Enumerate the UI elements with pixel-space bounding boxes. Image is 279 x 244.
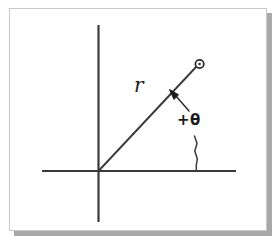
angle-label: +θ <box>177 113 201 128</box>
radius-label: r <box>134 75 144 95</box>
screenshot-root: r +θ <box>0 0 279 244</box>
point-marker-core <box>198 63 201 66</box>
polar-coordinate-figure <box>0 0 279 244</box>
diagram-canvas: r +θ <box>0 0 279 244</box>
r-leader-line <box>176 96 190 112</box>
theta-leader-line <box>195 136 198 171</box>
